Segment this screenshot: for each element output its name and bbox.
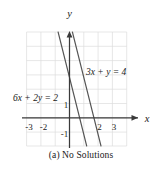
graph-svg: y x -3 -2 2 3 1 -1 3x + y = 4 6x + 2y = … <box>0 0 162 171</box>
x-axis-label: x <box>144 113 150 124</box>
x-tick-label-2: 2 <box>97 122 102 132</box>
y-tick-label-neg1: -1 <box>61 129 69 139</box>
figure-caption: (a) No Solutions <box>0 150 162 160</box>
y-axis-label: y <box>66 8 72 19</box>
x-tick-label-3: 3 <box>112 122 117 132</box>
x-tick-label-neg2: -2 <box>40 122 48 132</box>
x-axis-arrow <box>132 115 139 121</box>
x-tick-label-neg3: -3 <box>25 122 33 132</box>
line-label-3x-plus-y-equals-4: 3x + y = 4 <box>85 67 127 77</box>
line-label-6x-plus-2y-equals-2: 6x + 2y = 2 <box>13 93 58 103</box>
y-tick-label-1: 1 <box>64 100 69 110</box>
figure-container: y x -3 -2 2 3 1 -1 3x + y = 4 6x + 2y = … <box>0 0 162 171</box>
